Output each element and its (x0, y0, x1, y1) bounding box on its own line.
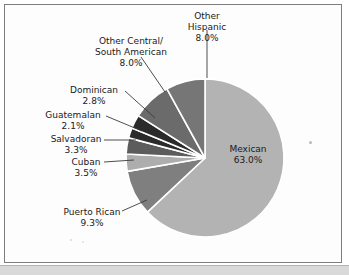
label-mexican-pct: 63.0% (234, 155, 263, 165)
label-other-central-south-american-line2: South American (95, 47, 167, 57)
label-guatemalan-pct: 2.1% (62, 121, 85, 131)
label-puerto-rican-name: Puerto Rican (63, 207, 120, 217)
label-guatemalan-name: Guatemalan (45, 110, 100, 120)
pie-chart: Mexican 63.0% Puerto Rican 9.3% Cuban 3.… (0, 0, 349, 275)
label-mexican-name: Mexican (229, 144, 266, 154)
label-other-central-south-american-pct: 8.0% (120, 58, 143, 68)
label-other-hispanic-line2: Hispanic (188, 22, 226, 32)
label-other-hispanic-pct: 8.0% (196, 33, 219, 43)
scan-speck-icon (82, 241, 84, 243)
label-dominican-name: Dominican (70, 85, 118, 95)
label-cuban-pct: 3.5% (75, 168, 98, 178)
label-other-hispanic-line1: Other (194, 11, 220, 21)
scan-speck-icon (309, 141, 312, 144)
label-dominican-pct: 2.8% (83, 96, 106, 106)
screenshot-root: Mexican 63.0% Puerto Rican 9.3% Cuban 3.… (0, 0, 349, 275)
label-other-central-south-american-line1: Other Central/ (99, 36, 164, 46)
label-puerto-rican-pct: 9.3% (81, 218, 104, 228)
label-salvadoran-name: Salvadoran (51, 134, 102, 144)
label-cuban-name: Cuban (72, 157, 101, 167)
leader-line-other-central-south-american (141, 57, 165, 92)
scan-speck-icon (70, 239, 72, 241)
label-salvadoran-pct: 3.3% (65, 145, 88, 155)
